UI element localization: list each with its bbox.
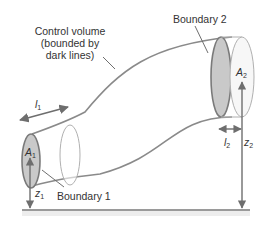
boundary-2-ellipse	[211, 37, 231, 117]
l1-arrow	[20, 107, 68, 120]
control-volume-label-line2: (bounded by	[30, 37, 110, 49]
inlet-extension-ellipse	[60, 125, 80, 185]
control-volume-label-line1: Control volume	[30, 25, 110, 37]
boundary-1-label: Boundary 1	[57, 190, 111, 202]
z1-label: z1	[35, 187, 44, 203]
boundary-2-label: Boundary 2	[173, 13, 227, 25]
z2-label: z2	[244, 136, 253, 152]
a1-label: A1	[25, 146, 36, 162]
control-volume-label: Control volume (bounded by dark lines)	[30, 25, 110, 61]
a2-label: A2	[236, 66, 247, 82]
control-volume-label-line3: dark lines)	[30, 49, 110, 61]
ground-line	[22, 210, 250, 216]
boundary-2-leader	[195, 26, 208, 53]
boundary-1-leader	[42, 170, 64, 187]
l1-label: l1	[35, 98, 41, 114]
l2-label: l2	[224, 136, 230, 152]
